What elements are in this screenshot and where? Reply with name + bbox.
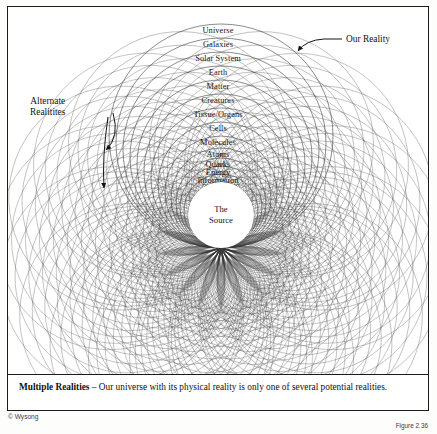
source-line-2: Source bbox=[209, 215, 233, 226]
annotation-alternate-realities: Alternate Realitites bbox=[30, 96, 65, 119]
figure-area: Universe Galaxies Solar System Earth Mat… bbox=[8, 7, 428, 375]
annotation-alternate-line-2: Realitites bbox=[30, 107, 65, 118]
annotation-alternate-line-1: Alternate bbox=[30, 96, 65, 107]
caption-lead: Multiple Realities bbox=[19, 382, 90, 392]
figure-number: Figure 2.36 bbox=[396, 422, 428, 429]
copyright-credit: © Wysong bbox=[8, 413, 38, 420]
caption-divider bbox=[8, 374, 428, 375]
source-line-1: The bbox=[214, 204, 227, 215]
figure-frame: Universe Galaxies Solar System Earth Mat… bbox=[7, 6, 429, 411]
annotation-our-reality: Our Reality bbox=[346, 34, 390, 45]
caption-dash: – bbox=[90, 382, 99, 392]
figure-caption: Multiple Realities – Our universe with i… bbox=[19, 382, 417, 394]
page-background: Universe Galaxies Solar System Earth Mat… bbox=[0, 0, 437, 434]
caption-body: Our universe with its physical reality i… bbox=[99, 382, 387, 392]
source-center-label: The Source bbox=[188, 182, 254, 248]
